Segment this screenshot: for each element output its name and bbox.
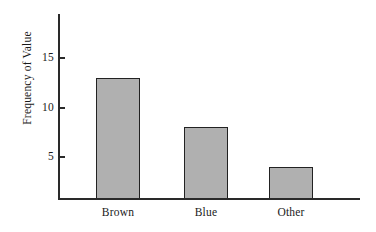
y-tick-label: 10: [14, 102, 54, 114]
tick-mark-icon: [58, 156, 65, 158]
x-axis-label-other: Other: [251, 205, 331, 219]
y-axis-title: Frequency of Value: [21, 3, 33, 153]
x-axis-label-blue: Blue: [166, 205, 246, 219]
x-axis-label-brown: Brown: [78, 205, 158, 219]
tick-mark-icon: [58, 57, 65, 59]
y-tick-label: 15: [14, 52, 54, 64]
bar-blue: [184, 127, 228, 198]
bar-other: [269, 167, 313, 198]
x-axis-line: [58, 198, 360, 200]
tick-mark-icon: [58, 107, 65, 109]
bar-brown: [96, 78, 140, 198]
bar-chart: Frequency of Value 15 10 5 Brown Blue Ot…: [0, 0, 376, 232]
y-tick-label: 5: [14, 151, 54, 163]
